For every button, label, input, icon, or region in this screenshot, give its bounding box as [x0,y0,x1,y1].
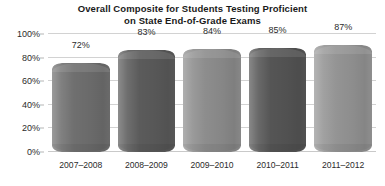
y-axis-tick [40,104,44,105]
bar-slot [314,34,372,152]
bar-shading [249,48,307,152]
y-axis: 0%20%40%60%80%100% [0,34,44,152]
bar-slot [52,34,110,152]
x-axis-label: 2008–2009 [125,160,168,170]
y-axis-tick [40,152,44,153]
y-axis-tick [40,128,44,129]
plot-area: 72%83%84%85%87% [48,34,376,152]
bar-shading [183,49,241,152]
y-axis-label: 100% [17,29,40,39]
y-axis-tick [40,57,44,58]
chart-title-line-2: on State End-of-Grade Exams [0,15,385,27]
bar-value-label: 87% [334,22,352,32]
y-axis-label: 20% [22,123,40,133]
bar-value-label: 85% [269,25,287,35]
bar-value-label: 72% [72,40,90,50]
x-axis: 2007–20082008–20092009–20102010–20112011… [48,160,376,176]
bar[interactable] [314,45,372,152]
bar-top-cap [314,45,372,54]
bar-slot [118,34,176,152]
bar-slot [249,34,307,152]
bar[interactable] [118,50,176,152]
x-axis-label: 2010–2011 [256,160,298,170]
chart-title-line-1: Overall Composite for Students Testing P… [0,3,385,15]
bar-shading [118,50,176,152]
bar-shading [52,63,110,152]
bar[interactable] [52,63,110,152]
bar-shading [314,45,372,152]
y-axis-tick [40,34,44,35]
bar-value-label: 83% [137,27,155,37]
bar[interactable] [183,49,241,152]
bar[interactable] [249,48,307,152]
bar-slot [183,34,241,152]
bar-series: 72%83%84%85%87% [48,34,376,152]
chart-title: Overall Composite for Students Testing P… [0,3,385,28]
y-axis-label: 40% [22,100,40,110]
y-axis-tick [40,81,44,82]
x-axis-label: 2011–2012 [322,160,364,170]
y-axis-label: 60% [22,76,40,86]
x-axis-label: 2007–2008 [59,160,102,170]
y-axis-label: 80% [22,53,40,63]
x-axis-label: 2009–2010 [190,160,233,170]
y-axis-label: 0% [27,147,40,157]
bar-value-label: 84% [203,26,221,36]
bar-chart: Overall Composite for Students Testing P… [0,0,385,186]
